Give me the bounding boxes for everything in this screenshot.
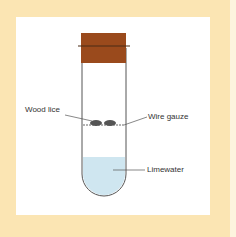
wood-lice-label: Wood lice bbox=[25, 106, 60, 114]
wood-lice-leader bbox=[65, 115, 92, 121]
test-tube-diagram bbox=[0, 0, 236, 237]
limewater-liquid bbox=[83, 157, 125, 195]
wire-gauze-leader bbox=[124, 117, 147, 125]
wire-gauze-label: Wire gauze bbox=[148, 113, 188, 121]
cork-stopper bbox=[81, 33, 126, 63]
wood-louse-2 bbox=[104, 120, 116, 126]
limewater-label: Limewater bbox=[147, 166, 184, 174]
